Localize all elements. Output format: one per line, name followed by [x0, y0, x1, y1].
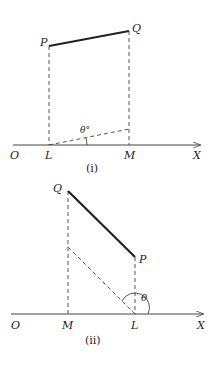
label-x: X: [197, 320, 205, 331]
parallel-line: [68, 247, 135, 314]
figure-ii: [11, 191, 203, 314]
label-o: O: [11, 320, 20, 331]
caption-ii: (ii): [85, 335, 101, 346]
segment-qp: [68, 191, 135, 257]
label-l: L: [131, 320, 138, 331]
label-x: X: [193, 150, 201, 161]
caption-i: (i): [86, 163, 98, 174]
label-angle: θ°: [80, 126, 90, 135]
label-o: O: [10, 150, 19, 161]
projection-diagram: [0, 0, 221, 368]
label-q: Q: [132, 23, 141, 34]
angle-arc: [86, 138, 87, 145]
label-q: Q: [53, 183, 62, 194]
label-angle: θ: [141, 293, 147, 303]
label-m: M: [62, 320, 73, 331]
label-m: M: [124, 150, 135, 161]
label-l: L: [45, 150, 52, 161]
label-p: P: [139, 254, 146, 265]
label-p: P: [40, 37, 47, 48]
segment-pq: [49, 31, 129, 46]
